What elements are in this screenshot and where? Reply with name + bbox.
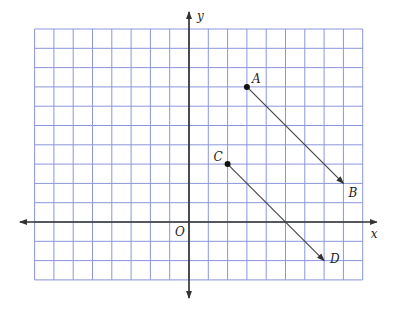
- point-A: [244, 84, 250, 90]
- point-label-A: A: [251, 72, 261, 86]
- ray-CD: [228, 164, 325, 261]
- x-axis-label: x: [371, 227, 378, 241]
- point-C: [225, 161, 231, 167]
- coordinate-plane: ABCD x y O: [0, 0, 403, 310]
- point-label-B: B: [347, 186, 357, 200]
- point-label-D: D: [329, 252, 340, 266]
- ray-AB: [247, 87, 344, 183]
- origin-label: O: [175, 225, 185, 239]
- point-label-C: C: [214, 150, 223, 164]
- grid-lines: [35, 29, 363, 280]
- y-axis-label: y: [196, 9, 204, 23]
